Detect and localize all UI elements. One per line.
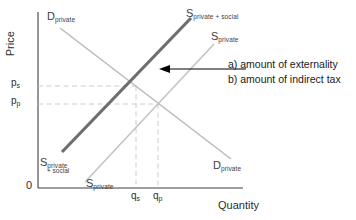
supply-private-curve — [85, 44, 214, 182]
y-tick-price-social-sub: s — [17, 82, 21, 89]
x-tick-quantity-social-sub: s — [137, 195, 141, 202]
curve-label-demand-top-base: D — [47, 10, 55, 22]
curve-label-demand-top: Dprivate — [47, 11, 75, 23]
curve-label-demand-bottom-sub: private — [221, 165, 241, 172]
curve-label-supply-private-bottom-sub: private — [93, 183, 113, 190]
annotation-line-a: a) amount of externality — [228, 57, 341, 72]
curve-label-supply-private-top: Sprivate — [211, 31, 239, 43]
y-tick-price-social: ps — [11, 78, 20, 89]
curve-label-demand-bottom: Dprivate — [213, 160, 241, 172]
curve-label-supply-social-bottom: Sprivate+ social — [40, 157, 69, 175]
supply-private-plus-social-curve — [62, 18, 191, 152]
curve-label-supply-social-bottom-sub2: + social — [47, 168, 69, 175]
x-tick-quantity-private-sub: p — [159, 195, 163, 202]
annotation-block: a) amount of externality b) amount of in… — [228, 57, 341, 87]
annotation-line-b: b) amount of indirect tax — [228, 72, 341, 87]
y-tick-price-private: pp — [11, 96, 20, 107]
x-axis-title: Quantity — [218, 200, 259, 212]
x-tick-quantity-social: qs — [131, 191, 140, 202]
demand-private-curve — [60, 28, 231, 159]
y-tick-price-private-sub: p — [17, 100, 21, 107]
curve-label-supply-social-top: Sprivate + social — [186, 8, 238, 20]
chart-plot-area — [0, 0, 356, 220]
x-tick-quantity-private: qp — [153, 191, 162, 202]
curve-label-supply-social-top-sub: private + social — [193, 13, 238, 20]
curve-label-supply-private-bottom: Sprivate — [86, 178, 114, 190]
curve-label-supply-private-top-sub: private — [218, 36, 238, 43]
curve-label-demand-top-sub: private — [55, 16, 75, 23]
externality-arrow-head — [159, 65, 170, 73]
economics-externality-diagram: Price Quantity 0 ps pp qs qp Dprivate Dp… — [0, 0, 356, 220]
curve-label-demand-bottom-base: D — [213, 159, 221, 171]
origin-label: 0 — [26, 180, 32, 192]
y-axis-title: Price — [5, 21, 17, 67]
